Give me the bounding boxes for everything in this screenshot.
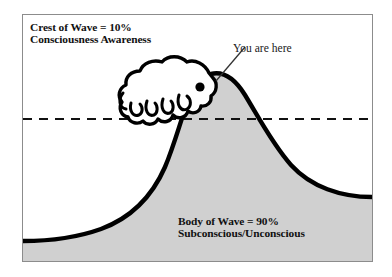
body-label-line1: Body of Wave = 90% (178, 215, 305, 227)
crest-label: Crest of Wave = 10% Consciousness Awaren… (30, 21, 151, 46)
you-are-here-label: You are here (233, 42, 292, 55)
figure-container: Crest of Wave = 10% Consciousness Awaren… (0, 0, 392, 277)
crest-label-line2: Consciousness Awareness (30, 33, 151, 45)
body-label: Body of Wave = 90% Subconscious/Unconsci… (178, 215, 305, 240)
body-label-line2: Subconscious/Unconscious (178, 227, 305, 239)
you-are-here-dot (195, 82, 204, 91)
figure-frame: Crest of Wave = 10% Consciousness Awaren… (22, 14, 373, 262)
crest-label-line1: Crest of Wave = 10% (30, 21, 151, 33)
